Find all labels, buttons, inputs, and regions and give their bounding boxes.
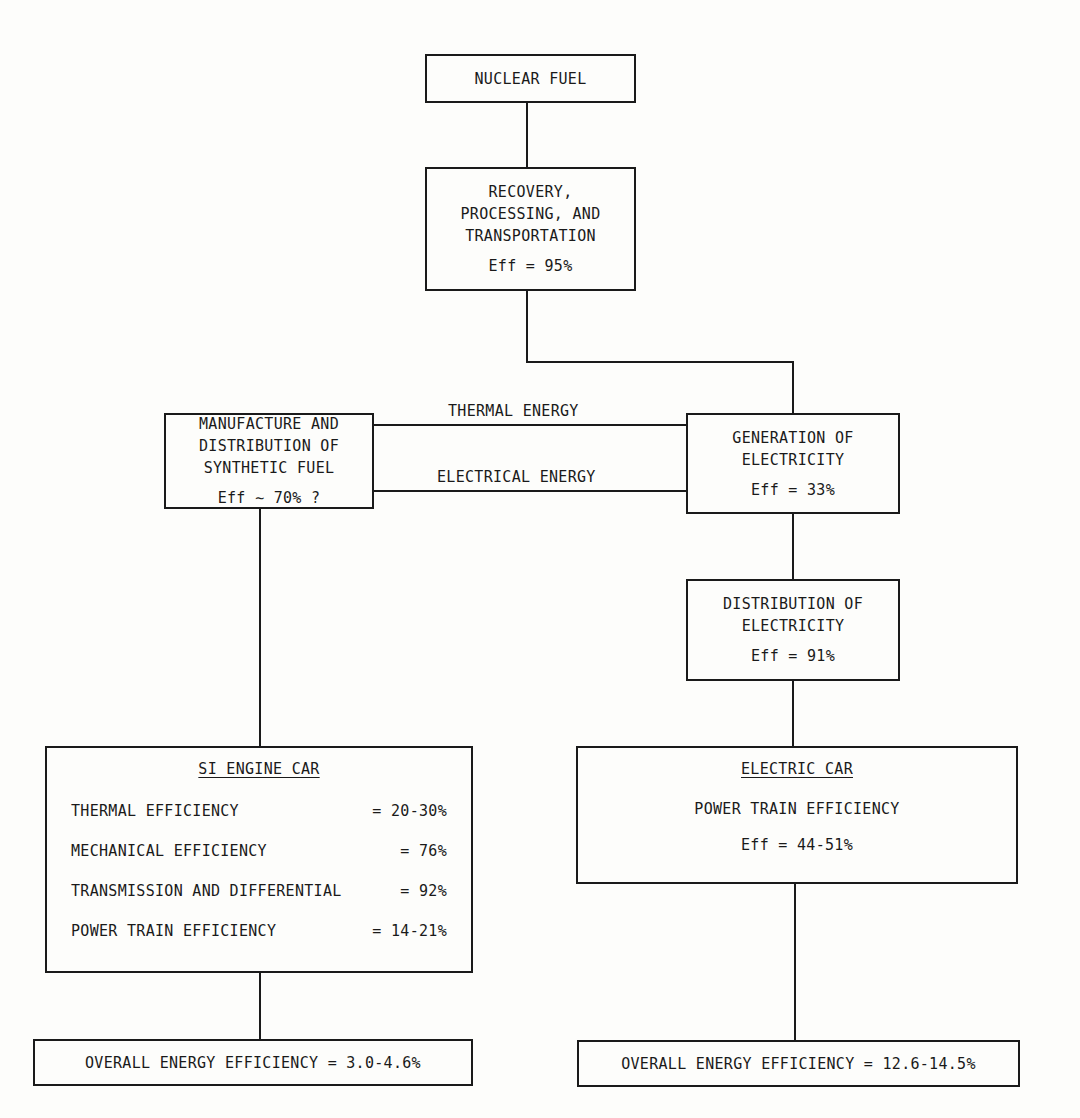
connector-recovery-down: [526, 289, 528, 363]
si-car-row-transmission: TRANSMISSION AND DIFFERENTIAL = 92%: [71, 880, 447, 902]
node-generation-of-electricity: GENERATION OF ELECTRICITY Eff = 33%: [686, 413, 900, 514]
node-si-engine-car: SI ENGINE CAR THERMAL EFFICIENCY = 20-30…: [45, 746, 473, 973]
node-efficiency: Eff = 95%: [489, 255, 573, 277]
row-value: = 92%: [400, 880, 447, 902]
overall-label: OVERALL ENERGY EFFICIENCY = 3.0-4.6%: [85, 1052, 421, 1074]
node-efficiency: Eff = 33%: [751, 479, 835, 501]
si-car-row-mechanical: MECHANICAL EFFICIENCY = 76%: [71, 840, 447, 862]
node-line: DISTRIBUTION OF: [723, 593, 863, 615]
node-line: TRANSPORTATION: [465, 225, 596, 247]
node-line: SYNTHETIC FUEL: [204, 457, 335, 479]
electric-car-efficiency: Eff = 44-51%: [741, 834, 853, 856]
row-label: THERMAL EFFICIENCY: [71, 800, 239, 822]
connector-distribution-to-electric-car: [792, 679, 794, 748]
node-line: PROCESSING, AND: [461, 203, 601, 225]
node-overall-electric: OVERALL ENERGY EFFICIENCY = 12.6-14.5%: [577, 1040, 1020, 1087]
row-label: POWER TRAIN EFFICIENCY: [71, 920, 276, 942]
node-nuclear-fuel: NUCLEAR FUEL: [425, 54, 636, 103]
connector-recovery-across: [526, 361, 794, 363]
node-line: MANUFACTURE AND: [199, 413, 339, 435]
node-synthetic-fuel: MANUFACTURE AND DISTRIBUTION OF SYNTHETI…: [164, 413, 374, 509]
node-electric-car: ELECTRIC CAR POWER TRAIN EFFICIENCY Eff …: [576, 746, 1018, 884]
node-line: GENERATION OF: [732, 427, 853, 449]
node-line: ELECTRICITY: [742, 449, 845, 471]
row-label: MECHANICAL EFFICIENCY: [71, 840, 267, 862]
overall-label: OVERALL ENERGY EFFICIENCY = 12.6-14.5%: [621, 1053, 976, 1075]
row-value: = 20-30%: [372, 800, 447, 822]
node-recovery-processing-transportation: RECOVERY, PROCESSING, AND TRANSPORTATION…: [425, 167, 636, 291]
thermal-energy-label: THERMAL ENERGY: [448, 402, 579, 420]
row-value: = 76%: [400, 840, 447, 862]
row-label: TRANSMISSION AND DIFFERENTIAL: [71, 880, 342, 902]
si-car-row-power-train: POWER TRAIN EFFICIENCY = 14-21%: [71, 920, 447, 942]
node-line: DISTRIBUTION OF: [199, 435, 339, 457]
node-label: NUCLEAR FUEL: [475, 68, 587, 90]
electric-car-subtitle: POWER TRAIN EFFICIENCY: [694, 798, 899, 820]
thermal-energy-line: [372, 424, 688, 426]
connector-synthetic-to-si-car: [259, 507, 261, 747]
row-value: = 14-21%: [372, 920, 447, 942]
si-car-row-thermal: THERMAL EFFICIENCY = 20-30%: [71, 800, 447, 822]
node-efficiency: Eff = 91%: [751, 645, 835, 667]
electrical-energy-line: [372, 490, 688, 492]
node-line: RECOVERY,: [489, 181, 573, 203]
electric-car-title: ELECTRIC CAR: [741, 758, 853, 780]
connector-fuel-to-recovery: [526, 101, 528, 169]
node-overall-si: OVERALL ENERGY EFFICIENCY = 3.0-4.6%: [33, 1039, 473, 1086]
connector-generation-to-distribution: [792, 512, 794, 581]
node-distribution-of-electricity: DISTRIBUTION OF ELECTRICITY Eff = 91%: [686, 579, 900, 681]
node-line: ELECTRICITY: [742, 615, 845, 637]
connector-to-generation: [792, 361, 794, 415]
electrical-energy-label: ELECTRICAL ENERGY: [437, 468, 596, 486]
connector-si-car-to-overall: [259, 971, 261, 1041]
node-efficiency: Eff ∼ 70% ?: [218, 487, 321, 509]
si-car-title: SI ENGINE CAR: [198, 758, 319, 780]
connector-electric-car-to-overall: [794, 882, 796, 1042]
